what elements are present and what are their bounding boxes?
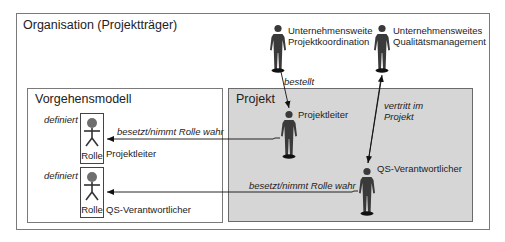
person-icon-projektkoordination [270, 25, 286, 73]
relation-label-besetzt-projektleiter: besetzt/nimmt Rolle wahr [117, 126, 224, 137]
arrow-besetzt-projektleiter [107, 138, 280, 139]
actor-label-projektkoordination: Unternehmensweite Projektkoordination [288, 25, 373, 47]
arrow-vertritt-up [368, 75, 382, 163]
person-icon-qs-verantwortlicher [359, 168, 375, 216]
actor-label-qualitaetsmanagement: Unternehmensweites Qualitätsmanagement [393, 25, 486, 47]
actor-label-qs-verantwortlicher: QS-Verantwortlicher [377, 163, 462, 174]
actor-label-projektleiter: Projektleiter [298, 109, 348, 120]
relation-label-vertritt: vertritt im Projekt [384, 100, 423, 122]
person-icon-qualitaetsmanagement [374, 25, 390, 73]
person-icon-projektleiter [281, 111, 297, 159]
relation-label-line2: Projekt [384, 111, 423, 122]
relation-label-line1: vertritt im [384, 100, 423, 111]
actor-label-line2: Qualitätsmanagement [393, 36, 486, 47]
relation-label-bestellt: bestellt [284, 76, 314, 87]
actor-label-line1: Unternehmensweite [288, 25, 373, 36]
actor-label-line2: Projektkoordination [288, 36, 373, 47]
actor-label-line1: Unternehmensweites [393, 25, 486, 36]
relation-label-besetzt-qs: besetzt/nimmt Rolle wahr [249, 180, 356, 191]
arrow-besetzt-qs [107, 191, 358, 192]
